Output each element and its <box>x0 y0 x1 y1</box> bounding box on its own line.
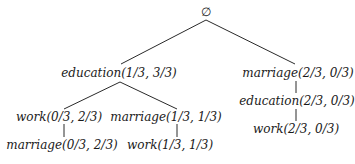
node-education-1-3-3-3: education(1/3, 3/3) <box>61 67 177 79</box>
node-education-2-3-0-3: education(2/3, 0/3) <box>239 95 355 107</box>
node-marriage-0-3-2-3: marriage(0/3, 2/3) <box>6 139 117 151</box>
edge-root-marriage <box>206 20 295 64</box>
root-node-empty-set: ∅ <box>201 6 211 18</box>
edge-root-education <box>121 20 206 64</box>
node-work-2-3-0-3: work(2/3, 0/3) <box>253 123 339 135</box>
node-work-1-3-1-3: work(1/3, 1/3) <box>127 139 213 151</box>
tree-diagram: ∅ education(1/3, 3/3) marriage(2/3, 0/3)… <box>0 0 355 164</box>
node-work-0-3-2-3: work(0/3, 2/3) <box>16 111 102 123</box>
edge-education-work <box>64 82 120 109</box>
edge-education-marriage <box>120 82 177 109</box>
node-marriage-1-3-1-3: marriage(1/3, 1/3) <box>110 111 221 123</box>
node-marriage-2-3-0-3: marriage(2/3, 0/3) <box>242 67 353 79</box>
